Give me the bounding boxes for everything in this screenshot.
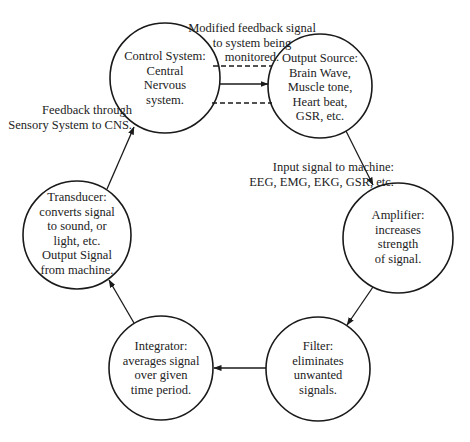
modified-feedback-label: Modified feedback signal to system being… <box>182 21 322 65</box>
input-signal-label: Input signal to machine: EEG, EMG, EKG, … <box>234 160 394 189</box>
edge-integrator-to-transducer <box>109 280 134 323</box>
transducer-label: Transducer: converts signal to sound, or… <box>39 190 114 277</box>
filter-label: Filter: eliminates unwanted signals. <box>292 339 343 397</box>
integrator-label: Integrator: averages signal over given t… <box>123 339 200 397</box>
amplifier-label: Amplifier: increases strength of signal. <box>362 208 434 266</box>
edge-amplifier-to-filter <box>347 287 373 325</box>
feedback-sensory-label: Feedback through Sensory System to CNS. <box>2 103 132 132</box>
edge-transducer-to-control <box>107 127 134 189</box>
